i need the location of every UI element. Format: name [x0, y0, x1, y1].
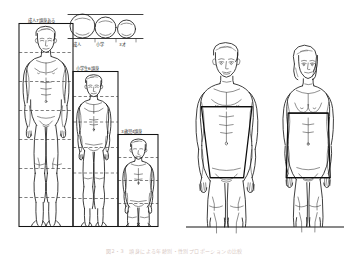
adult-male-figure-right	[196, 43, 258, 233]
adult-box-label: 成人7頭身ある	[28, 17, 55, 24]
toddler-box-label: 3歳児4頭身	[121, 128, 142, 135]
adult-male-figure-left	[19, 26, 73, 226]
figure-caption: 図2・3 頭身による年齢別・性別プロポーションの比較	[0, 248, 349, 255]
anatomy-proportion-illustration: .ln{fill:none;stroke:#1d1d1d;stroke-widt…	[0, 0, 349, 257]
head-label-adult: 成人	[73, 41, 82, 48]
schoolchild-figure-left	[73, 75, 118, 227]
figure-canvas: .ln{fill:none;stroke:#1d1d1d;stroke-widt…	[0, 0, 349, 257]
toddler-figure-left	[118, 139, 158, 227]
schoolchild-box-label: 小学生6頭身	[76, 65, 99, 72]
schoolchild-proportion-box	[73, 72, 118, 227]
head-label-schoolchild: 小学	[96, 41, 104, 48]
head-label-toddler: 3才	[119, 41, 126, 48]
adult-female-figure-right	[283, 45, 334, 232]
head-size-comparison-row	[68, 14, 143, 42]
